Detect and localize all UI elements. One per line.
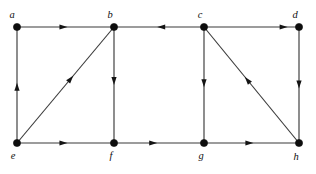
node-label-g: g (198, 150, 203, 161)
graph-node-c (200, 23, 207, 30)
edge-h-c (204, 27, 299, 143)
arrowhead-g-h (245, 140, 253, 145)
graph-canvas: abcdefgh (0, 0, 316, 174)
node-label-a: a (9, 9, 14, 20)
node-label-e: e (11, 150, 16, 161)
arrowhead-b-f (111, 77, 116, 85)
nodes-layer (13, 23, 302, 146)
arrowhead-e-f (59, 140, 67, 145)
arrowhead-f-g (149, 140, 157, 145)
node-label-d: d (292, 9, 298, 20)
graph-node-b (110, 23, 117, 30)
node-label-c: c (198, 9, 203, 20)
node-label-f: f (110, 150, 115, 161)
arrowhead-e-a (14, 83, 19, 91)
node-label-h: h (293, 151, 298, 162)
arrowhead-d-h (296, 80, 301, 88)
arrowheads-layer (14, 24, 301, 145)
graph-node-d (295, 23, 302, 30)
graph-figure: abcdefgh (0, 0, 316, 174)
edges-layer (17, 27, 299, 143)
graph-node-f (110, 139, 117, 146)
edge-e-b (17, 27, 114, 143)
node-labels-layer: abcdefgh (9, 9, 298, 162)
arrowhead-c-d (280, 24, 288, 29)
arrowhead-c-g (201, 79, 206, 87)
graph-node-a (13, 23, 20, 30)
graph-node-e (13, 139, 20, 146)
graph-node-h (295, 139, 302, 146)
arrowhead-a-b (59, 24, 67, 29)
graph-node-g (200, 139, 207, 146)
arrowhead-c-b (157, 24, 165, 29)
node-label-b: b (107, 9, 112, 20)
